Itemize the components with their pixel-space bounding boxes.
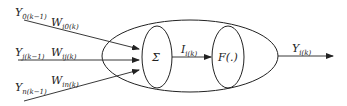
weight-label-n: Win(k) — [51, 74, 79, 89]
intermediate-label: Ii(k) — [180, 43, 198, 58]
weight-label-j: Wij(k) — [51, 46, 77, 61]
activation-label: F(.) — [217, 51, 238, 64]
input-line-0 — [24, 20, 139, 49]
neuron-diagram: Y0(k−1) Wi0(k) Yj(k−1) Wij(k) Yn(k−1) Wi… — [0, 0, 347, 106]
input-label-j: Yj(k−1) — [15, 46, 45, 61]
input-label-n: Yn(k−1) — [15, 81, 47, 96]
weight-label-0: Wi0(k) — [51, 16, 79, 31]
input-line-n — [24, 70, 139, 101]
input-label-0: Y0(k−1) — [15, 6, 47, 21]
output-label: Yi(k) — [292, 42, 311, 57]
summation-symbol: Σ — [151, 51, 160, 64]
